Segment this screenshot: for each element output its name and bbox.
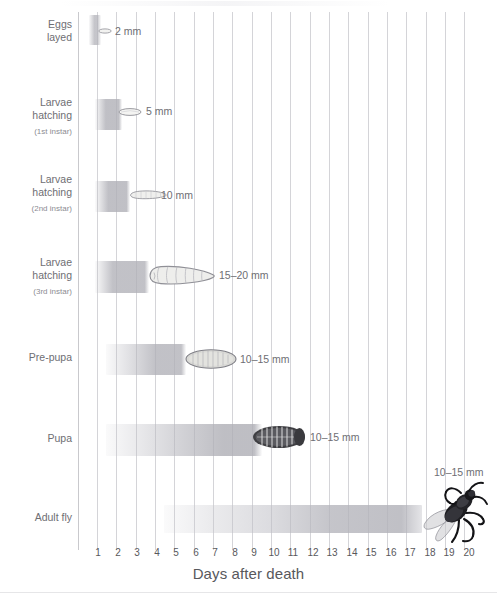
size-label-pupa: 10–15 mm	[310, 431, 360, 443]
x-tick-19: 19	[440, 547, 458, 558]
row-label-larvae-3rd-instar: Larvae hatching (3rd instar)	[2, 256, 72, 298]
pre-pupa-icon	[185, 348, 237, 370]
bar-adult-fly	[164, 505, 422, 533]
x-tick-7: 7	[206, 547, 224, 558]
x-axis-title: Days after death	[0, 565, 497, 582]
bar-pre-pupa	[106, 344, 186, 375]
x-tick-5: 5	[167, 547, 185, 558]
row-label-pre-pupa: Pre-pupa	[2, 351, 72, 364]
x-tick-8: 8	[226, 547, 244, 558]
row-label-larvae-2nd-instar: Larvae hatching (2nd instar)	[2, 173, 72, 215]
bar-larvae-3rd-instar	[95, 261, 149, 293]
row-label-pupa: Pupa	[2, 432, 72, 445]
x-tick-1: 1	[89, 547, 107, 558]
x-tick-4: 4	[148, 547, 166, 558]
x-tick-6: 6	[187, 547, 205, 558]
x-tick-20: 20	[460, 547, 478, 558]
bottom-divider	[0, 592, 497, 593]
row-labels-column: Eggs layed Larvae hatching (1st instar) …	[0, 0, 72, 600]
x-tick-16: 16	[382, 547, 400, 558]
size-label-pre-pupa: 10–15 mm	[240, 353, 290, 365]
x-tick-17: 17	[401, 547, 419, 558]
x-tick-11: 11	[284, 547, 302, 558]
row-label-adult-fly: Adult fly	[2, 511, 72, 524]
x-tick-13: 13	[323, 547, 341, 558]
y-axis-line	[78, 12, 79, 550]
x-tick-15: 15	[362, 547, 380, 558]
x-tick-3: 3	[128, 547, 146, 558]
size-label-adult-fly: 10–15 mm	[434, 466, 484, 478]
size-label-larvae-1st-instar: 5 mm	[146, 105, 172, 117]
bar-pupa	[106, 424, 262, 456]
x-tick-9: 9	[245, 547, 263, 558]
x-tick-14: 14	[343, 547, 361, 558]
x-tick-18: 18	[421, 547, 439, 558]
x-tick-12: 12	[304, 547, 322, 558]
bar-larvae-2nd-instar	[95, 181, 130, 212]
size-label-eggs-layed: 2 mm	[115, 25, 141, 37]
larva-first-instar-icon	[118, 106, 142, 118]
x-tick-10: 10	[265, 547, 283, 558]
top-edge-artifact	[60, 1, 390, 6]
egg-icon	[98, 27, 112, 35]
larva-third-instar-icon	[146, 263, 216, 289]
adult-fly-icon	[419, 479, 491, 551]
size-label-larvae-3rd-instar: 15–20 mm	[219, 269, 269, 281]
blowfly-lifecycle-chart: Eggs layed Larvae hatching (1st instar) …	[0, 0, 497, 600]
size-label-larvae-2nd-instar: 10 mm	[161, 189, 193, 201]
x-tick-2: 2	[109, 547, 127, 558]
row-label-larvae-1st-instar: Larvae hatching (1st instar)	[2, 96, 72, 138]
pupa-icon	[252, 424, 306, 450]
row-label-eggs-layed: Eggs layed	[2, 18, 72, 44]
